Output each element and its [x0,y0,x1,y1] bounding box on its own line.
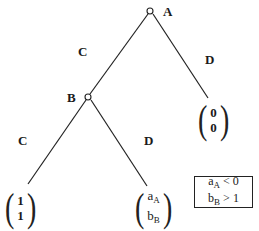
payoff-top: aA [147,188,159,208]
close-paren: ) [163,188,172,228]
payoff-top: 1 [17,193,24,208]
node-b-label: B [67,91,76,104]
payoff-top: 0 [210,105,217,120]
edge-ab-label: C [78,45,87,58]
edge-a-to-leaf-00 [153,14,208,98]
edge-b-right-label: D [144,134,153,147]
edge-a-leaf-label: D [205,53,214,66]
condition-box: aA < 0 bB > 1 [194,176,253,208]
node-a-label: A [163,5,172,18]
open-paren: ( [198,100,207,140]
payoff-bottom: bB [147,208,160,228]
edge-b-left-label: C [18,134,27,147]
payoff-bottom: 0 [210,120,217,135]
open-paren: ( [135,188,144,228]
payoff-vector-ab: ( aA bB ) [133,188,174,228]
edge-b-to-leaf-11 [28,100,86,184]
edge-a-to-b [90,14,148,94]
node-a-circle [147,8,153,14]
payoff-bottom: 1 [17,208,24,223]
node-b-circle [85,94,91,100]
close-paren: ) [220,100,229,140]
open-paren: ( [5,188,14,228]
payoff-vector-11: ( 1 1 ) [3,188,38,228]
close-paren: ) [27,188,36,228]
condition-line-2: bB > 1 [208,192,239,209]
payoff-vector-00: ( 0 0 ) [196,100,231,140]
condition-line-1: aA < 0 [208,175,239,192]
edge-b-to-leaf-ab [91,100,147,186]
